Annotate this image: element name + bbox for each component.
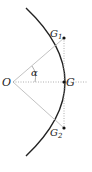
line-o-g2: [13, 82, 64, 128]
diagram-canvas: O G G1 G2 α: [0, 0, 92, 172]
label-alpha: α: [31, 67, 38, 78]
point-g1: [62, 36, 65, 39]
label-g: G: [66, 76, 75, 89]
line-o-g1: [13, 38, 64, 82]
label-o: O: [2, 76, 11, 89]
label-g2: G2: [50, 127, 63, 140]
point-g2: [62, 126, 65, 129]
